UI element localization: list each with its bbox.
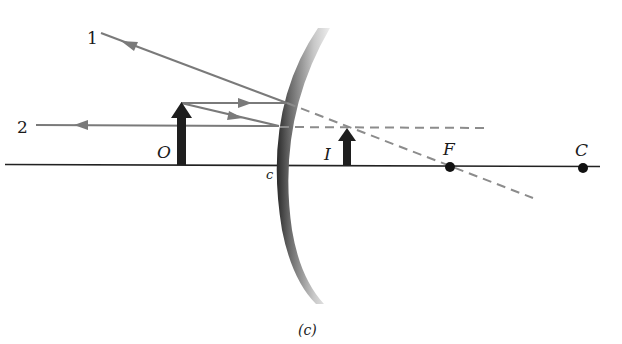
- ray2-reflected-arrow-icon: [74, 120, 88, 130]
- optical-axis: [5, 165, 600, 167]
- vertex-label: c: [266, 167, 274, 182]
- ray2-incident-arrow-icon: [227, 111, 243, 120]
- convex-mirror-ray-diagram: 1 2 O I F C c (c): [0, 0, 622, 344]
- ray2-reflected: [36, 125, 279, 126]
- object-label: O: [157, 142, 171, 162]
- ray1-reflected-arrow-icon: [121, 41, 138, 51]
- image-arrow-shaft: [343, 139, 351, 165]
- center-of-curvature-label: C: [575, 140, 588, 160]
- figure-caption: (c): [298, 322, 317, 338]
- focal-point-label: F: [442, 139, 456, 159]
- image-label: I: [323, 144, 331, 164]
- center-of-curvature-dot: [578, 163, 588, 173]
- ray1-label: 1: [87, 28, 98, 48]
- focal-point-dot: [445, 162, 455, 172]
- image-arrow-head-icon: [338, 128, 356, 141]
- ray1-incident-arrow-icon: [238, 98, 252, 108]
- ray2-virtual-extension: [280, 127, 486, 128]
- object-arrow-shaft: [177, 116, 186, 165]
- ray2-label: 2: [17, 117, 28, 137]
